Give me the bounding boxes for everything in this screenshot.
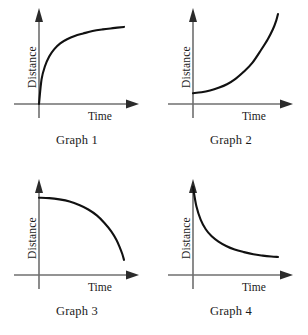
graph-panel-1: Distance Time Graph 1 bbox=[0, 0, 154, 167]
graph-3-curve bbox=[39, 198, 124, 260]
graph-1-x-axis-label: Time bbox=[88, 110, 112, 122]
x-axis-arrow-icon bbox=[126, 271, 139, 280]
graph-panel-3: Distance Time Graph 3 bbox=[0, 167, 154, 334]
graph-3-y-axis-label: Distance bbox=[26, 217, 38, 259]
graph-1-caption: Graph 1 bbox=[0, 133, 154, 148]
four-graphs-figure: Distance Time Graph 1 Distance Time Grap… bbox=[0, 0, 308, 335]
graph-4-curve bbox=[193, 187, 278, 257]
graph-panel-2: Distance Time Graph 2 bbox=[154, 0, 308, 167]
graph-1-y-axis-label: Distance bbox=[26, 46, 38, 88]
graph-1-plot bbox=[0, 0, 154, 137]
graph-3-x-axis-label: Time bbox=[88, 281, 112, 293]
graph-4-plot bbox=[154, 167, 308, 304]
x-axis-arrow-icon bbox=[280, 100, 293, 109]
graph-4-caption: Graph 4 bbox=[154, 304, 308, 319]
graph-2-x-axis-label: Time bbox=[242, 110, 266, 122]
graph-1-curve bbox=[39, 27, 124, 104]
x-axis-arrow-icon bbox=[126, 100, 139, 109]
graph-2-curve bbox=[193, 14, 278, 93]
graph-4-y-axis-label: Distance bbox=[180, 217, 192, 259]
graph-2-plot bbox=[154, 0, 308, 137]
graph-3-caption: Graph 3 bbox=[0, 304, 154, 319]
x-axis-arrow-icon bbox=[280, 271, 293, 280]
y-axis-arrow-icon bbox=[35, 8, 43, 22]
graph-2-caption: Graph 2 bbox=[154, 133, 308, 148]
graph-3-plot bbox=[0, 167, 154, 304]
graph-panel-4: Distance Time Graph 4 bbox=[154, 167, 308, 334]
graph-2-y-axis-label: Distance bbox=[180, 46, 192, 88]
graph-4-x-axis-label: Time bbox=[242, 281, 266, 293]
y-axis-arrow-icon bbox=[35, 179, 43, 193]
y-axis-arrow-icon bbox=[189, 8, 197, 22]
